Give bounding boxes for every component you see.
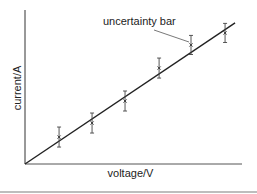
fit-line xyxy=(25,23,235,164)
best-fit-line xyxy=(25,23,235,164)
annotation-leader-line xyxy=(154,30,189,42)
data-point xyxy=(90,113,94,133)
bottom-divider xyxy=(0,191,257,193)
x-axis-label: voltage/V xyxy=(0,167,257,179)
chart-canvas xyxy=(0,0,257,194)
data-point xyxy=(123,91,127,111)
data-point xyxy=(57,127,61,147)
y-axis-label: current/A xyxy=(11,66,23,111)
axes xyxy=(25,10,242,164)
uncertainty-bar-annotation: uncertainty bar xyxy=(103,15,176,27)
data-point xyxy=(223,23,227,42)
